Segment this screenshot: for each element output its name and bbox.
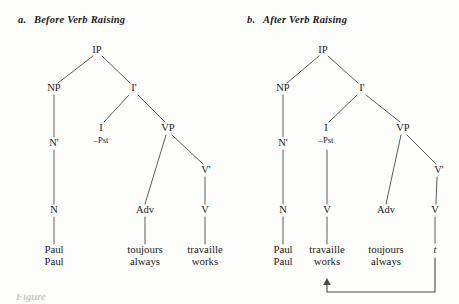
node-a-nbar: N' bbox=[49, 137, 58, 149]
terminal-a-travaille-gloss: works bbox=[187, 255, 222, 267]
node-b-nbar: N' bbox=[278, 137, 287, 149]
figure-container: a.Before Verb Raising IP NP I' N' I –Pst… bbox=[0, 0, 459, 304]
node-b-np: NP bbox=[276, 82, 289, 94]
node-b-ip: IP bbox=[318, 44, 327, 56]
node-a-ip: IP bbox=[92, 44, 101, 56]
node-b-infl: I bbox=[324, 122, 328, 134]
terminal-b-travaille: travaille works bbox=[309, 243, 344, 267]
caption-text-a: Before Verb Raising bbox=[34, 14, 125, 25]
caption-letter-a: a. bbox=[18, 14, 34, 25]
edge-a-ip-np bbox=[58, 56, 93, 83]
terminal-b-trace: t bbox=[434, 243, 437, 255]
movement-arrow-head bbox=[323, 278, 331, 285]
node-b-vp: VP bbox=[396, 122, 409, 134]
terminal-a-travaille: travaille works bbox=[187, 243, 222, 267]
bottom-cut-strip: Figure bbox=[0, 294, 459, 304]
edge-b-ip-np bbox=[287, 56, 319, 83]
terminal-a-toujours-word: toujours bbox=[127, 243, 162, 255]
terminal-b-trace-word: t bbox=[434, 243, 437, 255]
node-a-infl: I bbox=[99, 122, 103, 134]
node-a-n: N bbox=[50, 204, 58, 216]
edge-a-vp-adv bbox=[145, 135, 166, 204]
terminal-b-travaille-word: travaille bbox=[309, 243, 344, 255]
edge-b-vp-vbar bbox=[407, 135, 436, 164]
terminal-b-travaille-gloss: works bbox=[309, 255, 344, 267]
node-a-np: NP bbox=[47, 82, 60, 94]
edge-a-vp-vbar bbox=[172, 135, 203, 164]
edge-b-ibar-infl bbox=[329, 95, 357, 122]
terminal-a-toujours: toujours always bbox=[127, 243, 162, 267]
edge-a-ibar-vp bbox=[138, 95, 165, 122]
terminal-b-toujours: toujours always bbox=[368, 243, 403, 267]
node-b-vbar: V' bbox=[434, 164, 443, 176]
node-a-infl-feature: –Pst bbox=[94, 135, 109, 145]
bottom-cut-text: Figure bbox=[16, 294, 46, 302]
node-a-vbar: V' bbox=[201, 164, 210, 176]
terminal-b-paul-word: Paul bbox=[273, 243, 292, 255]
terminal-a-travaille-word: travaille bbox=[187, 243, 222, 255]
node-b-adv: Adv bbox=[377, 204, 395, 216]
edge-a-ip-ibar bbox=[102, 56, 130, 83]
node-a-adv: Adv bbox=[136, 204, 154, 216]
edge-b-vbar-v bbox=[436, 177, 437, 204]
node-b-infl-feature: –Pst bbox=[319, 135, 334, 145]
node-b-v: V bbox=[431, 204, 439, 216]
node-b-ibar: I' bbox=[359, 82, 364, 94]
terminal-a-paul-gloss: Paul bbox=[44, 255, 63, 267]
terminal-a-paul: Paul Paul bbox=[44, 243, 63, 267]
caption-panel-a: a.Before Verb Raising bbox=[18, 14, 125, 25]
edge-b-vp-adv bbox=[386, 135, 401, 204]
node-b-n: N bbox=[279, 204, 287, 216]
node-a-ibar: I' bbox=[131, 82, 136, 94]
node-a-vp: VP bbox=[161, 122, 174, 134]
terminal-b-toujours-word: toujours bbox=[368, 243, 403, 255]
edge-b-ip-ibar bbox=[328, 56, 358, 83]
caption-text-b: After Verb Raising bbox=[263, 14, 347, 25]
caption-letter-b: b. bbox=[247, 14, 263, 25]
terminal-b-paul-gloss: Paul bbox=[273, 255, 292, 267]
terminal-b-paul: Paul Paul bbox=[273, 243, 292, 267]
edge-a-ibar-infl bbox=[104, 95, 129, 122]
terminal-b-toujours-gloss: always bbox=[368, 255, 403, 267]
node-b-v-raised: V bbox=[323, 204, 331, 216]
terminal-a-toujours-gloss: always bbox=[127, 255, 162, 267]
caption-panel-b: b.After Verb Raising bbox=[247, 14, 347, 25]
terminal-a-paul-word: Paul bbox=[44, 243, 63, 255]
node-a-v: V bbox=[201, 204, 209, 216]
edge-b-ibar-vp bbox=[366, 95, 400, 122]
